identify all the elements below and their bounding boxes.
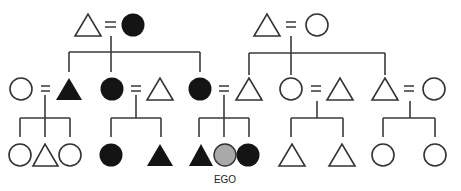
male-black-triangle-icon <box>189 144 213 166</box>
marriage-equals-icon <box>105 22 116 27</box>
g3-siblings-a <box>9 144 81 166</box>
marriage-equals-icon <box>131 86 141 91</box>
male-open-triangle-icon <box>329 144 355 166</box>
male-open-triangle-icon <box>372 78 398 100</box>
marriage-equals-icon <box>286 22 296 27</box>
descent-lines-g2-e <box>383 101 435 137</box>
male-open-triangle-icon <box>33 144 58 166</box>
female-open-circle-icon <box>423 78 445 100</box>
male-open-triangle-icon <box>327 78 353 100</box>
descent-lines-g2-d <box>291 101 343 137</box>
female-black-circle-icon <box>101 78 124 101</box>
marriage-equals-icon <box>41 86 50 91</box>
female-open-circle-icon <box>9 144 31 166</box>
descent-lines-g2-b <box>111 95 161 137</box>
g3-siblings-b <box>100 144 174 167</box>
male-open-triangle-icon <box>75 14 101 36</box>
female-open-circle-icon <box>10 78 32 100</box>
female-open-circle-icon <box>372 144 394 166</box>
male-black-triangle-icon <box>147 144 173 166</box>
descent-lines-g2-a <box>20 95 70 137</box>
male-open-triangle-icon <box>236 78 262 100</box>
male-open-triangle-icon <box>254 14 280 36</box>
female-open-circle-icon <box>280 78 302 100</box>
female-black-circle-icon <box>189 78 212 101</box>
g3-siblings-c: EGO <box>189 144 260 186</box>
male-black-triangle-icon <box>56 78 82 100</box>
g3-siblings-e <box>372 144 446 166</box>
female-open-circle-icon <box>306 14 328 36</box>
g2-couple-d <box>280 78 353 100</box>
kinship-diagram: EGO <box>0 0 461 191</box>
marriage-equals-icon <box>311 86 321 91</box>
g2-couple-e <box>372 78 445 100</box>
female-open-circle-icon <box>424 144 446 166</box>
marriage-equals-icon <box>404 86 414 91</box>
female-black-circle-icon <box>122 14 145 37</box>
ego-label: EGO <box>214 174 236 185</box>
female-black-circle-icon <box>237 144 260 167</box>
g3-siblings-d <box>279 144 355 166</box>
g1-right-couple <box>254 14 328 36</box>
g2-couple-c <box>189 78 263 101</box>
male-open-triangle-icon <box>147 78 173 100</box>
female-black-circle-icon <box>100 144 123 167</box>
descent-lines-g1-right <box>249 36 385 75</box>
male-open-triangle-icon <box>279 144 305 166</box>
ego-gray-circle-icon <box>214 144 236 166</box>
descent-lines-g2-c <box>199 95 249 137</box>
female-open-circle-icon <box>59 144 81 166</box>
g2-couple-a <box>10 78 82 100</box>
g1-left-couple <box>75 14 145 37</box>
marriage-equals-icon <box>219 86 229 91</box>
descent-lines-g1-left <box>69 36 200 72</box>
